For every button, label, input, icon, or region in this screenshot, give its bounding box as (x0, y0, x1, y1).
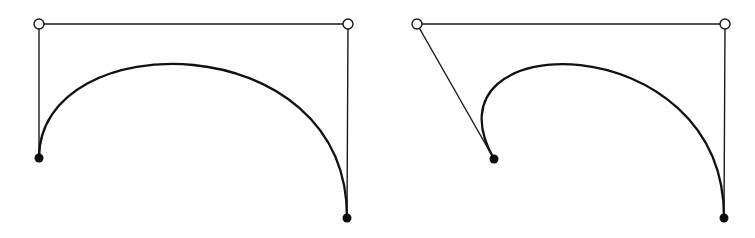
right-bezier-curve (482, 64, 724, 218)
left-bezier-panel (34, 19, 353, 223)
right-control-polygon (417, 24, 725, 218)
left-bezier-curve (39, 64, 347, 218)
right-control-point-1 (412, 19, 422, 29)
left-start-point (35, 154, 44, 163)
right-control-point-2 (720, 19, 730, 29)
right-bezier-panel (412, 19, 730, 223)
right-start-point (490, 155, 499, 164)
bezier-diagram (0, 0, 755, 238)
right-end-point (720, 214, 729, 223)
left-end-point (343, 214, 352, 223)
left-control-polygon (39, 24, 348, 218)
left-control-point-2 (343, 19, 353, 29)
left-control-point-1 (34, 19, 44, 29)
